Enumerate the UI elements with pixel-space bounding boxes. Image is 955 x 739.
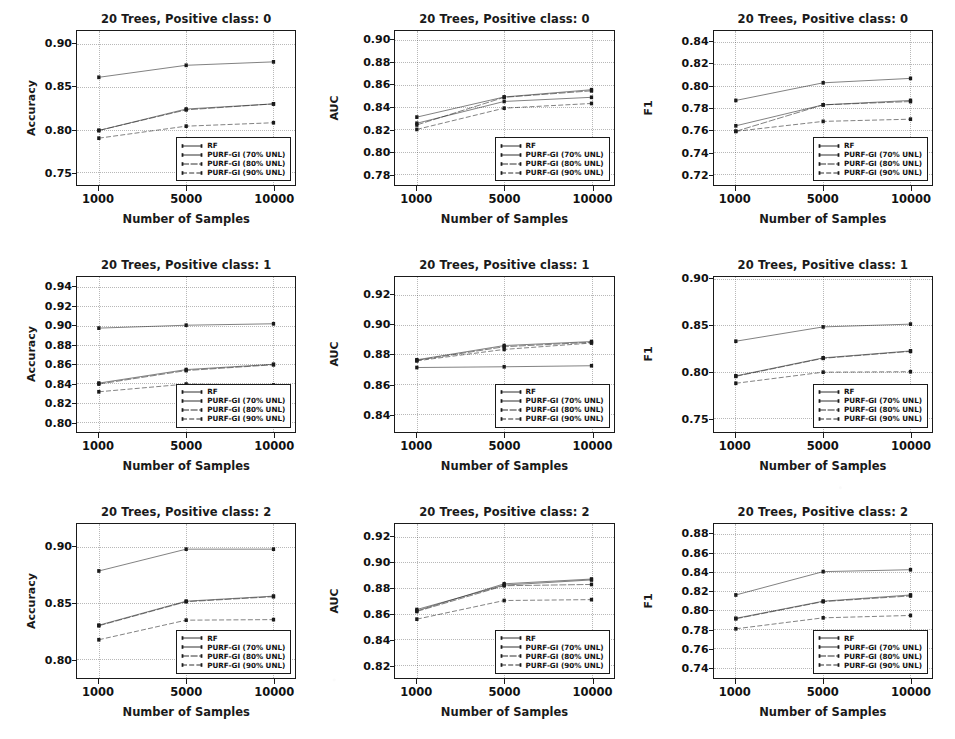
x-tick-mark (911, 433, 912, 438)
legend-marker-icon (500, 406, 522, 414)
y-tick-label: 0.94 (45, 280, 72, 293)
y-tick-label: 0.92 (363, 288, 390, 301)
legend-marker-icon (500, 643, 522, 651)
y-tick-label: 0.80 (682, 604, 709, 617)
legend: RFPURF-GI (70% UNL)PURF-GI (80% UNL)PURF… (495, 384, 610, 428)
legend-marker-icon (181, 160, 203, 168)
y-tick-label: 0.86 (363, 378, 390, 391)
subplot-title: 20 Trees, Positive class: 0 (318, 12, 636, 26)
x-tick-mark (274, 679, 275, 684)
subplot-1: 20 Trees, Positive class: 0AUC0.780.800.… (318, 0, 636, 246)
legend-marker-icon (181, 415, 203, 423)
legend: RFPURF-GI (70% UNL)PURF-GI (80% UNL)PURF… (176, 137, 291, 181)
y-tick-label: 0.90 (45, 319, 72, 332)
x-tick-mark (98, 186, 99, 191)
x-tick-label: 10000 (573, 685, 613, 699)
data-point (272, 102, 275, 106)
subplot-4: 20 Trees, Positive class: 1AUC0.840.860.… (318, 246, 636, 492)
y-tick-label: 0.78 (682, 102, 709, 115)
data-point (503, 100, 506, 104)
plot-panel: 20 Trees, Positive class: 2Accuracy0.800… (0, 493, 318, 739)
x-axis-label: Number of Samples (76, 459, 296, 473)
legend-marker-icon (818, 652, 840, 660)
legend-item: PURF-GI (90% UNL) (181, 415, 285, 424)
series-line-2 (99, 365, 274, 384)
subplot-title: 20 Trees, Positive class: 0 (0, 12, 318, 26)
x-axis-ticks: 1000500010000 (394, 685, 614, 701)
legend-label: PURF-GI (90% UNL) (844, 660, 922, 672)
x-tick-label: 10000 (254, 439, 294, 453)
y-tick-label: 0.80 (682, 79, 709, 92)
x-axis-label: Number of Samples (394, 212, 614, 226)
data-point (416, 366, 419, 370)
x-tick-mark (735, 186, 736, 191)
x-axis-label: Number of Samples (76, 212, 296, 226)
data-point (97, 129, 100, 133)
y-tick-label: 0.74 (682, 662, 709, 675)
data-point (97, 638, 100, 642)
legend-marker-icon (181, 397, 203, 405)
data-point (590, 95, 593, 99)
x-tick-mark (416, 433, 417, 438)
legend-marker-icon (181, 652, 203, 660)
legend-marker-icon (818, 634, 840, 642)
legend-marker-icon (181, 142, 203, 150)
y-tick-label: 0.80 (363, 146, 390, 159)
data-point (821, 371, 824, 375)
data-point (97, 624, 100, 628)
subplot-title: 20 Trees, Positive class: 0 (637, 12, 955, 26)
x-tick-mark (504, 433, 505, 438)
x-axis-ticks: 1000500010000 (394, 192, 614, 208)
legend-label: PURF-GI (90% UNL) (207, 660, 285, 672)
data-point (97, 569, 100, 573)
plot-panel: 20 Trees, Positive class: 1Accuracy0.800… (0, 246, 318, 492)
legend-marker-icon (181, 388, 203, 396)
y-tick-label: 0.90 (682, 272, 709, 285)
legend-label: PURF-GI (90% UNL) (526, 167, 604, 179)
x-axis-ticks: 1000500010000 (76, 192, 296, 208)
data-point (734, 375, 737, 379)
data-point (821, 325, 824, 329)
y-tick-label: 0.92 (45, 299, 72, 312)
data-point (590, 364, 593, 368)
y-tick-label: 0.84 (682, 35, 709, 48)
y-axis-ticks: 0.800.820.840.860.880.900.920.94 (0, 276, 72, 432)
x-axis-label: Number of Samples (713, 705, 933, 719)
series-line-0 (99, 549, 274, 571)
x-tick-label: 5000 (807, 685, 839, 699)
data-point (503, 365, 506, 369)
plot-area: RFPURF-GI (70% UNL)PURF-GI (80% UNL)PURF… (713, 523, 933, 679)
data-point (909, 350, 912, 354)
x-tick-mark (823, 186, 824, 191)
legend: RFPURF-GI (70% UNL)PURF-GI (80% UNL)PURF… (813, 384, 928, 428)
data-point (272, 322, 275, 326)
y-tick-label: 0.86 (363, 607, 390, 620)
legend-marker-icon (181, 643, 203, 651)
data-point (185, 547, 188, 551)
y-tick-label: 0.90 (363, 318, 390, 331)
data-point (590, 597, 593, 601)
x-tick-label: 5000 (170, 192, 202, 206)
y-tick-label: 0.85 (45, 80, 72, 93)
y-tick-label: 0.90 (363, 33, 390, 46)
legend-label: PURF-GI (90% UNL) (844, 167, 922, 179)
x-axis-ticks: 1000500010000 (76, 685, 296, 701)
x-tick-mark (416, 679, 417, 684)
x-tick-mark (735, 433, 736, 438)
data-point (416, 359, 419, 363)
data-point (416, 128, 419, 132)
data-point (590, 102, 593, 106)
data-point (416, 609, 419, 613)
subplot-title: 20 Trees, Positive class: 2 (637, 505, 955, 519)
plot-panel: 20 Trees, Positive class: 2AUC0.820.840.… (318, 493, 636, 739)
data-point (909, 323, 912, 327)
data-point (97, 75, 100, 79)
data-point (416, 617, 419, 621)
data-point (272, 594, 275, 598)
y-tick-label: 0.76 (682, 124, 709, 137)
legend-item: PURF-GI (90% UNL) (500, 168, 604, 177)
data-point (590, 89, 593, 93)
plot-panel: 20 Trees, Positive class: 0F10.720.740.7… (637, 0, 955, 246)
legend-marker-icon (500, 661, 522, 669)
data-point (734, 382, 737, 386)
